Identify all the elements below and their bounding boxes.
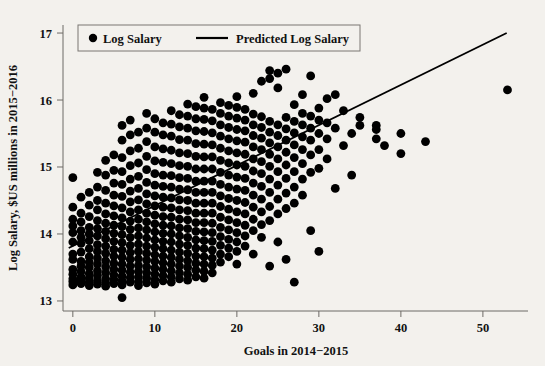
data-point <box>208 254 217 263</box>
data-point <box>159 130 168 139</box>
data-point <box>290 278 299 287</box>
data-point <box>208 165 217 174</box>
data-point <box>159 237 168 246</box>
data-point <box>265 117 274 126</box>
data-point <box>150 191 159 200</box>
data-point <box>323 94 332 103</box>
data-point <box>298 175 307 184</box>
data-point <box>208 228 217 237</box>
data-point <box>109 151 118 160</box>
data-point <box>109 166 118 175</box>
data-point <box>224 123 233 132</box>
data-point <box>142 124 151 133</box>
data-point <box>232 136 241 145</box>
data-point <box>126 175 135 184</box>
data-point <box>224 194 233 203</box>
data-point <box>159 145 168 154</box>
data-point <box>134 240 143 249</box>
data-point <box>216 223 225 232</box>
data-point <box>331 184 340 193</box>
data-point <box>142 189 151 198</box>
data-point <box>273 131 282 140</box>
data-point <box>126 187 135 196</box>
data-point <box>282 113 291 122</box>
data-point <box>159 158 168 167</box>
data-point <box>232 173 241 182</box>
data-point <box>298 145 307 154</box>
data-point <box>282 255 291 264</box>
y-tick-label: 14 <box>40 227 53 241</box>
data-point <box>290 183 299 192</box>
data-point <box>208 246 217 255</box>
data-point <box>290 199 299 208</box>
data-point <box>191 244 200 253</box>
data-point <box>101 209 110 218</box>
data-point <box>159 182 168 191</box>
data-point <box>118 238 127 247</box>
data-point <box>126 207 135 216</box>
data-point <box>241 105 250 114</box>
data-point <box>396 129 405 138</box>
data-point <box>191 152 200 161</box>
data-point <box>109 201 118 210</box>
data-point <box>142 165 151 174</box>
data-point <box>142 152 151 161</box>
data-point <box>191 236 200 245</box>
data-point <box>208 105 217 114</box>
data-point <box>183 233 192 242</box>
data-point <box>183 136 192 145</box>
data-point <box>85 201 94 210</box>
data-point <box>167 159 176 168</box>
data-point <box>216 132 225 141</box>
data-point <box>191 227 200 236</box>
data-point <box>224 205 233 214</box>
data-point <box>216 109 225 118</box>
data-point <box>77 218 86 227</box>
data-point <box>142 199 151 208</box>
data-point <box>175 135 184 144</box>
data-point <box>298 159 307 168</box>
x-axis-title: Goals in 2014−2015 <box>244 344 348 358</box>
data-point <box>298 90 307 99</box>
data-point <box>85 212 94 221</box>
data-point <box>159 212 168 221</box>
data-point <box>208 153 217 162</box>
data-point <box>257 207 266 216</box>
data-point <box>273 209 282 218</box>
data-point <box>331 90 340 99</box>
data-point <box>298 109 307 118</box>
data-point <box>134 144 143 153</box>
x-tick-label: 20 <box>231 321 244 335</box>
data-point <box>77 257 86 266</box>
data-point <box>167 132 176 141</box>
data-point <box>150 211 159 220</box>
data-point <box>126 241 135 250</box>
data-point <box>273 167 282 176</box>
data-point <box>503 86 512 95</box>
data-point <box>282 174 291 183</box>
data-point <box>118 167 127 176</box>
data-point <box>265 66 274 75</box>
data-point <box>134 184 143 193</box>
data-point <box>323 155 332 164</box>
data-point <box>323 134 332 143</box>
x-tick-label: 30 <box>313 321 326 335</box>
data-point <box>101 199 110 208</box>
data-point <box>273 155 282 164</box>
data-point <box>126 161 135 170</box>
data-point <box>109 229 118 238</box>
x-tick-label: 10 <box>149 321 162 335</box>
data-point <box>85 223 94 232</box>
data-point <box>257 220 266 229</box>
data-point <box>200 236 209 245</box>
data-point <box>200 199 209 208</box>
data-point <box>167 183 176 192</box>
data-point <box>150 157 159 166</box>
data-point <box>134 224 143 233</box>
data-point <box>93 168 102 177</box>
data-point <box>257 157 266 166</box>
data-point <box>257 77 266 86</box>
data-point <box>175 149 184 158</box>
data-point <box>183 149 192 158</box>
data-point <box>273 195 282 204</box>
